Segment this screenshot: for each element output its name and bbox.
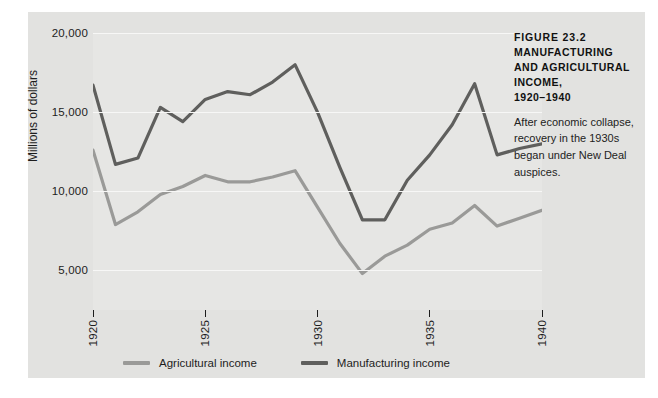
x-tick-mark <box>205 310 206 317</box>
series-line-agricultural-income <box>93 150 542 273</box>
x-tick: 1940 <box>536 310 548 346</box>
x-tick-label: 1925 <box>199 320 211 346</box>
caption-figure-number: FIGURE 23.2 <box>514 30 636 45</box>
figure-panel: Millions of dollars 5,00010,00015,00020,… <box>28 12 645 378</box>
x-tick-mark <box>542 310 543 317</box>
chart-lines <box>93 33 542 310</box>
gridline <box>93 270 542 271</box>
legend-item: Manufacturing income <box>301 357 450 369</box>
caption-body: After economic collapse, recovery in the… <box>514 114 636 181</box>
y-tick-label: 10,000 <box>52 185 88 197</box>
chart-legend: Agricultural incomeManufacturing income <box>123 357 450 369</box>
x-tick-mark <box>93 310 94 317</box>
x-tick-label: 1930 <box>312 320 324 346</box>
y-axis-ticks: 5,00010,00015,00020,000 <box>28 33 88 310</box>
x-tick-label: 1935 <box>424 320 436 346</box>
x-tick: 1930 <box>312 310 324 346</box>
legend-label: Agricultural income <box>159 357 257 369</box>
legend-swatch <box>301 361 328 365</box>
plot-area <box>93 33 542 310</box>
x-tick-label: 1920 <box>87 320 99 346</box>
x-tick-label: 1940 <box>536 320 548 346</box>
legend-swatch <box>123 361 150 365</box>
x-tick: 1925 <box>199 310 211 346</box>
y-tick-label: 20,000 <box>52 27 88 39</box>
gridline <box>93 112 542 113</box>
gridline <box>93 33 542 34</box>
y-tick-label: 15,000 <box>52 106 88 118</box>
x-tick-mark <box>317 310 318 317</box>
legend-label: Manufacturing income <box>337 357 450 369</box>
series-line-manufacturing-income <box>93 65 542 220</box>
caption-years: 1920–1940 <box>514 90 636 105</box>
gridline <box>93 191 542 192</box>
caption-title: MANUFACTURING AND AGRICULTURAL INCOME, <box>514 45 636 90</box>
x-tick: 1935 <box>424 310 436 346</box>
x-tick: 1920 <box>87 310 99 346</box>
legend-item: Agricultural income <box>123 357 257 369</box>
figure-caption: FIGURE 23.2 MANUFACTURING AND AGRICULTUR… <box>514 30 636 180</box>
y-tick-label: 5,000 <box>58 264 88 276</box>
x-tick-mark <box>429 310 430 317</box>
